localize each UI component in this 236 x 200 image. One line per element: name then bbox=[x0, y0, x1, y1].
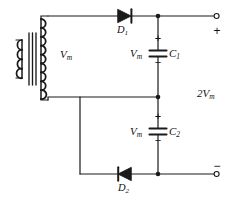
circuit-diagram: Vm D1 D2 Vm C1 + − Vm C2 + − + − 2Vm bbox=[0, 0, 236, 200]
output-negative-sign: − bbox=[211, 160, 223, 172]
capacitor-c1-minus-sign: − bbox=[152, 57, 164, 68]
capacitor-c2-label: C2 bbox=[169, 126, 180, 138]
transformer-core bbox=[29, 33, 36, 85]
diode-d1 bbox=[118, 9, 131, 23]
capacitor-c1-label: C1 bbox=[169, 48, 180, 60]
capacitor-c2-voltage-label: Vm bbox=[130, 126, 142, 138]
capacitor-c2-plus-sign: + bbox=[152, 111, 164, 122]
transformer-secondary-winding bbox=[41, 19, 46, 99]
diode-d2-label: D2 bbox=[118, 183, 129, 195]
diode-d2 bbox=[118, 167, 131, 181]
capacitor-c1-voltage-label: Vm bbox=[130, 48, 142, 60]
transformer-secondary-voltage-label: Vm bbox=[60, 49, 72, 61]
capacitor-c2-minus-sign: − bbox=[152, 135, 164, 146]
capacitor-c1-plus-sign: + bbox=[152, 33, 164, 44]
terminal-output-positive bbox=[214, 14, 219, 19]
transformer-primary-winding bbox=[16, 40, 22, 78]
output-voltage-label: 2Vm bbox=[197, 88, 215, 100]
wire-secondary-bottom-to-node-middle bbox=[48, 97, 158, 100]
output-positive-sign: + bbox=[211, 25, 223, 37]
diode-d1-label: D1 bbox=[117, 25, 128, 37]
